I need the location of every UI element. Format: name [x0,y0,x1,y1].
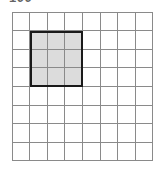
figure-root: 100 [0,0,164,169]
grid-svg [12,12,153,161]
grid-container [12,12,153,161]
shaded-square-fill [30,31,83,87]
caption-label: 100 [9,0,32,5]
